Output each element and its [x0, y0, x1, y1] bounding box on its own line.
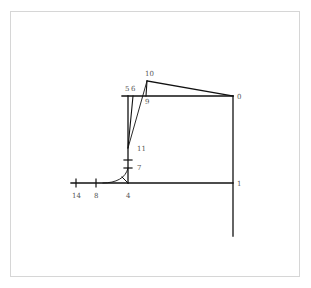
label-1: 1: [237, 180, 241, 188]
label-6: 6: [131, 85, 136, 93]
line-10-0: [147, 81, 233, 96]
label-10: 10: [145, 70, 154, 78]
armhole-curve: [103, 168, 128, 183]
label-14: 14: [72, 192, 81, 200]
label-9: 9: [145, 98, 149, 106]
label-11: 11: [137, 145, 146, 153]
label-8: 8: [94, 192, 98, 200]
label-4: 4: [126, 192, 131, 200]
corner-diagonal: [122, 177, 128, 183]
pattern-draft-diagram: 0 1 4 5 6 7 8 9 10 11 14: [0, 0, 311, 288]
label-0: 0: [237, 93, 241, 101]
label-7: 7: [137, 164, 141, 172]
label-5: 5: [125, 85, 129, 93]
